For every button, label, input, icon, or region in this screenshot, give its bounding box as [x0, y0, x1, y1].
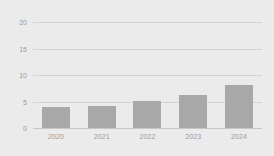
y-tick-label-2: 10 — [19, 72, 27, 79]
x-tick-label-2021: 2021 — [94, 133, 110, 140]
bar-2023 — [179, 95, 207, 128]
gridline-0-baseline — [33, 128, 262, 129]
bar-2022 — [133, 101, 161, 128]
y-tick-label-4: 20 — [19, 19, 27, 26]
y-axis-labels: 0 5 10 15 20 — [0, 0, 30, 156]
bar-slot-2020 — [33, 22, 79, 128]
bar-slot-2022 — [125, 22, 171, 128]
x-axis-labels: 2020 2021 2022 2023 2024 — [33, 131, 262, 149]
bar-slot-2023 — [170, 22, 216, 128]
x-tick-label-2023: 2023 — [185, 133, 201, 140]
bar-2024 — [225, 85, 253, 128]
bar-2020 — [42, 107, 70, 128]
x-tick-label-2024: 2024 — [231, 133, 247, 140]
bar-2021 — [88, 106, 116, 128]
x-tick-label-2020: 2020 — [48, 133, 64, 140]
bars-layer — [33, 22, 262, 128]
y-tick-label-0: 0 — [23, 125, 27, 132]
bar-chart: 0 5 10 15 20 2020 2021 2022 2023 2024 — [0, 0, 274, 156]
y-tick-label-1: 5 — [23, 98, 27, 105]
bar-slot-2021 — [79, 22, 125, 128]
bar-slot-2024 — [216, 22, 262, 128]
x-tick-label-2022: 2022 — [140, 133, 156, 140]
y-tick-label-3: 15 — [19, 45, 27, 52]
